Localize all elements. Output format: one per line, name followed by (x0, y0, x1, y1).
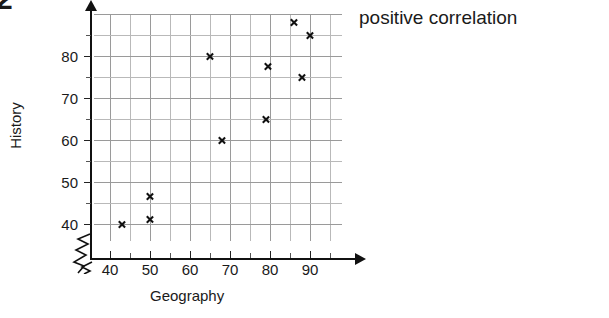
y-tick-label: 70 (44, 91, 78, 106)
scatter-plot: Geography History 4050607080904050607080 (0, 0, 400, 318)
y-tick-major (84, 182, 91, 183)
x-tick-label: 60 (175, 262, 205, 277)
gridline-horizontal (94, 98, 342, 99)
gridline-horizontal (94, 56, 342, 57)
gridline-vertical (270, 14, 271, 241)
y-tick-minor (86, 203, 91, 204)
x-tick-label: 40 (95, 262, 125, 277)
data-point-marker (298, 73, 307, 82)
gridline-horizontal (94, 161, 342, 162)
x-tick-major (230, 251, 231, 258)
x-tick-minor (210, 253, 211, 258)
gridline-vertical (130, 14, 131, 241)
gridline-vertical (190, 14, 191, 241)
gridline-vertical (230, 14, 231, 241)
x-tick-minor (330, 253, 331, 258)
data-point-marker (146, 192, 155, 201)
gridline-horizontal (94, 14, 342, 15)
data-point-marker (264, 62, 273, 71)
gridline-horizontal (94, 182, 342, 183)
gridline-vertical (250, 14, 251, 241)
x-tick-minor (130, 253, 131, 258)
gridline-vertical (170, 14, 171, 241)
data-point-marker (262, 115, 271, 124)
plot-area (94, 14, 342, 241)
gridline-vertical (150, 14, 151, 241)
x-axis-title: Geography (150, 288, 224, 303)
gridline-vertical (330, 14, 331, 241)
y-tick-minor (86, 77, 91, 78)
y-axis-title: History (8, 102, 23, 149)
x-tick-major (190, 251, 191, 258)
x-tick-major (110, 251, 111, 258)
y-tick-minor (86, 161, 91, 162)
y-axis-line (90, 8, 92, 260)
y-tick-major (84, 224, 91, 225)
gridline-horizontal (94, 224, 342, 225)
x-tick-label: 90 (295, 262, 325, 277)
data-point-marker (306, 31, 315, 40)
data-point-marker (146, 215, 155, 224)
y-tick-major (84, 140, 91, 141)
data-point-marker (290, 18, 299, 27)
x-axis-line (90, 258, 358, 260)
x-tick-major (270, 251, 271, 258)
y-tick-label: 50 (44, 175, 78, 190)
gridline-vertical (290, 14, 291, 241)
data-point-marker (218, 136, 227, 145)
data-point-marker (206, 52, 215, 61)
x-tick-minor (250, 253, 251, 258)
x-axis-arrow-icon (355, 253, 366, 265)
y-axis-arrow-icon (85, 0, 97, 11)
x-tick-label: 50 (135, 262, 165, 277)
y-tick-minor (86, 35, 91, 36)
data-point-marker (118, 220, 127, 229)
y-tick-label: 40 (44, 217, 78, 232)
gridline-vertical (210, 14, 211, 241)
x-tick-label: 80 (255, 262, 285, 277)
x-tick-minor (290, 253, 291, 258)
x-tick-label: 70 (215, 262, 245, 277)
y-tick-label: 80 (44, 49, 78, 64)
gridline-vertical (110, 14, 111, 241)
y-tick-major (84, 98, 91, 99)
gridline-horizontal (94, 203, 342, 204)
y-tick-major (84, 56, 91, 57)
gridline-horizontal (94, 119, 342, 120)
y-tick-label: 60 (44, 133, 78, 148)
y-tick-minor (86, 119, 91, 120)
x-tick-major (150, 251, 151, 258)
x-tick-minor (170, 253, 171, 258)
x-tick-major (310, 251, 311, 258)
gridline-vertical (310, 14, 311, 241)
